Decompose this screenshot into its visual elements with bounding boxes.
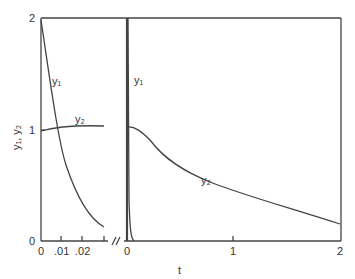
left-panel-curves [41,20,104,227]
y-axis-title: y₁, y₂ [10,125,22,150]
right-x-label-1: 1 [230,245,236,257]
left-x-label-0: 0 [38,245,44,257]
curve-label-y1-left: y₁ [52,75,62,87]
right-panel-curves [127,18,340,241]
curve-y2-left [41,126,104,131]
curve-label-y2-left: y₂ [75,113,85,125]
left-x-label-01: .01 [54,245,69,257]
curve-label-y1-right: y₁ [134,74,144,86]
left-x-label-02: .02 [75,245,90,257]
y-tick-label-1: 1 [29,124,35,136]
y-tick-label-0: 0 [29,235,35,247]
right-x-label-0: 0 [124,245,130,257]
curve-label-y2-right: y₂ [201,174,211,186]
plot-frame [41,18,341,241]
right-x-label-2: 2 [337,245,343,257]
y-tick-label-2: 2 [29,12,35,24]
curve-y2-right [127,127,340,224]
axis-break-icon [112,237,120,245]
curve-y1-right [128,18,134,241]
chart: 2 1 0 0 .01 .02 0 1 2 t y₁ y₂ y₁ y₂ y₁, … [0,0,355,279]
curve-y1-left [41,20,104,227]
x-axis-title: t [178,264,181,276]
